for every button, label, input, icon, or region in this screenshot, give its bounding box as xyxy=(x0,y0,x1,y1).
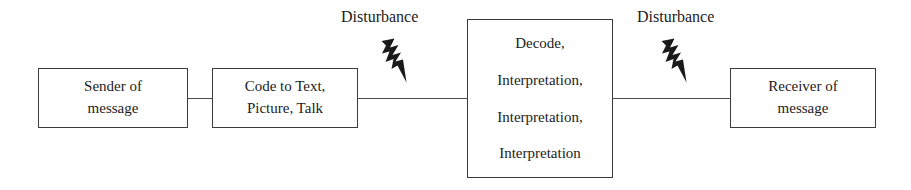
node-decode-line-2: Interpretation, xyxy=(497,70,582,92)
node-code-line-1: Code to Text, xyxy=(245,76,326,98)
node-receiver-line-2: message xyxy=(778,98,829,120)
node-sender-line-2: message xyxy=(88,98,139,120)
diagram-canvas: Sender of message Code to Text, Picture,… xyxy=(0,0,911,190)
node-sender-of-message: Sender of message xyxy=(38,68,188,128)
disturbance-label-2: Disturbance xyxy=(637,8,714,26)
node-decode-line-3: Interpretation, xyxy=(497,107,582,129)
disturbance-label-1: Disturbance xyxy=(341,8,418,26)
node-decode-interpretation: Decode, Interpretation, Interpretation, … xyxy=(467,19,613,178)
node-code-to-text: Code to Text, Picture, Talk xyxy=(212,68,358,128)
node-sender-line-1: Sender of xyxy=(84,76,142,98)
node-receiver-line-1: Receiver of xyxy=(768,76,838,98)
node-decode-line-1: Decode, xyxy=(515,33,565,55)
connector-decode-to-receiver xyxy=(612,98,731,99)
node-code-line-2: Picture, Talk xyxy=(247,98,323,120)
node-decode-line-4: Interpretation xyxy=(499,143,581,165)
connector-sender-to-code xyxy=(187,98,213,99)
node-receiver-of-message: Receiver of message xyxy=(730,68,876,128)
lightning-bolt-icon xyxy=(379,38,409,84)
lightning-bolt-icon xyxy=(659,38,689,84)
connector-code-to-decode xyxy=(357,98,468,99)
